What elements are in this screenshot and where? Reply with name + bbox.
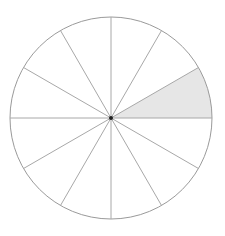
center-point (109, 116, 113, 120)
sector-divider (24, 118, 111, 169)
sector-divider (111, 118, 162, 205)
sector-divider (61, 118, 112, 205)
fraction-circle-diagram (0, 0, 225, 236)
sector-divider (111, 118, 198, 169)
sector-divider (61, 31, 112, 118)
sector-divider (24, 68, 111, 119)
